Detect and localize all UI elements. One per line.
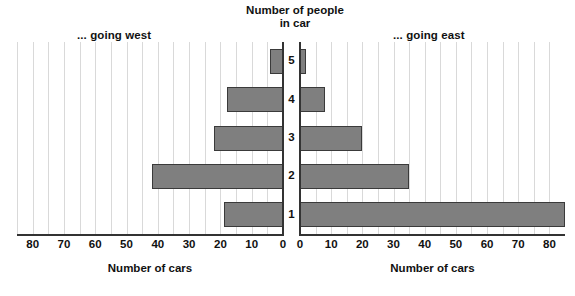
gridline [80, 42, 81, 234]
bar-left-cat-2 [152, 164, 283, 189]
gridline [111, 42, 112, 234]
bar-left-cat-1 [224, 202, 283, 227]
gridline [205, 42, 206, 234]
tick-east-20: 20 [348, 238, 376, 250]
bar-right-cat-3 [300, 126, 362, 151]
tick-east-70: 70 [504, 238, 532, 250]
axis-title-west: Number of cars [17, 262, 283, 274]
gridline [95, 42, 96, 234]
pyramid-chart: ... going west ... going east Number of … [0, 0, 575, 296]
gridline [127, 42, 128, 234]
bar-right-cat-2 [300, 164, 409, 189]
tick-west-60: 60 [81, 238, 109, 250]
tick-west-40: 40 [144, 238, 172, 250]
gridline [142, 42, 143, 234]
heading-going-east: ... going east [393, 29, 465, 41]
gridline [33, 42, 34, 234]
heading-going-west: ... going west [77, 29, 151, 41]
tick-west-20: 20 [206, 238, 234, 250]
tick-east-60: 60 [473, 238, 501, 250]
tick-west-50: 50 [113, 238, 141, 250]
chart-center-title: Number of people in car [197, 4, 393, 30]
axis-title-east: Number of cars [300, 262, 565, 274]
chart-center-title-line2: in car [197, 17, 393, 30]
gridline [48, 42, 49, 234]
tick-west-80: 80 [19, 238, 47, 250]
gridline [17, 42, 18, 234]
tick-east-30: 30 [380, 238, 408, 250]
category-axis-west [17, 234, 284, 236]
gridline [158, 42, 159, 234]
category-label-1: 1 [283, 208, 300, 220]
bar-left-cat-3 [214, 126, 283, 151]
bar-right-cat-4 [300, 87, 325, 112]
tick-east-80: 80 [535, 238, 563, 250]
tick-west-70: 70 [50, 238, 78, 250]
category-axis-east [299, 234, 565, 236]
category-label-5: 5 [283, 54, 300, 66]
tick-east-50: 50 [442, 238, 470, 250]
tick-east-10: 10 [317, 238, 345, 250]
category-label-2: 2 [283, 169, 300, 181]
category-label-3: 3 [283, 131, 300, 143]
gridline [189, 42, 190, 234]
plot-area-east [300, 42, 565, 234]
tick-west-10: 10 [238, 238, 266, 250]
gridline [64, 42, 65, 234]
bar-left-cat-4 [227, 87, 283, 112]
plot-area-west [17, 42, 283, 234]
category-label-4: 4 [283, 93, 300, 105]
gridline [173, 42, 174, 234]
bar-right-cat-1 [300, 202, 565, 227]
chart-center-title-line1: Number of people [197, 4, 393, 17]
tick-east-0: 0 [286, 238, 314, 250]
tick-east-40: 40 [411, 238, 439, 250]
tick-west-30: 30 [175, 238, 203, 250]
